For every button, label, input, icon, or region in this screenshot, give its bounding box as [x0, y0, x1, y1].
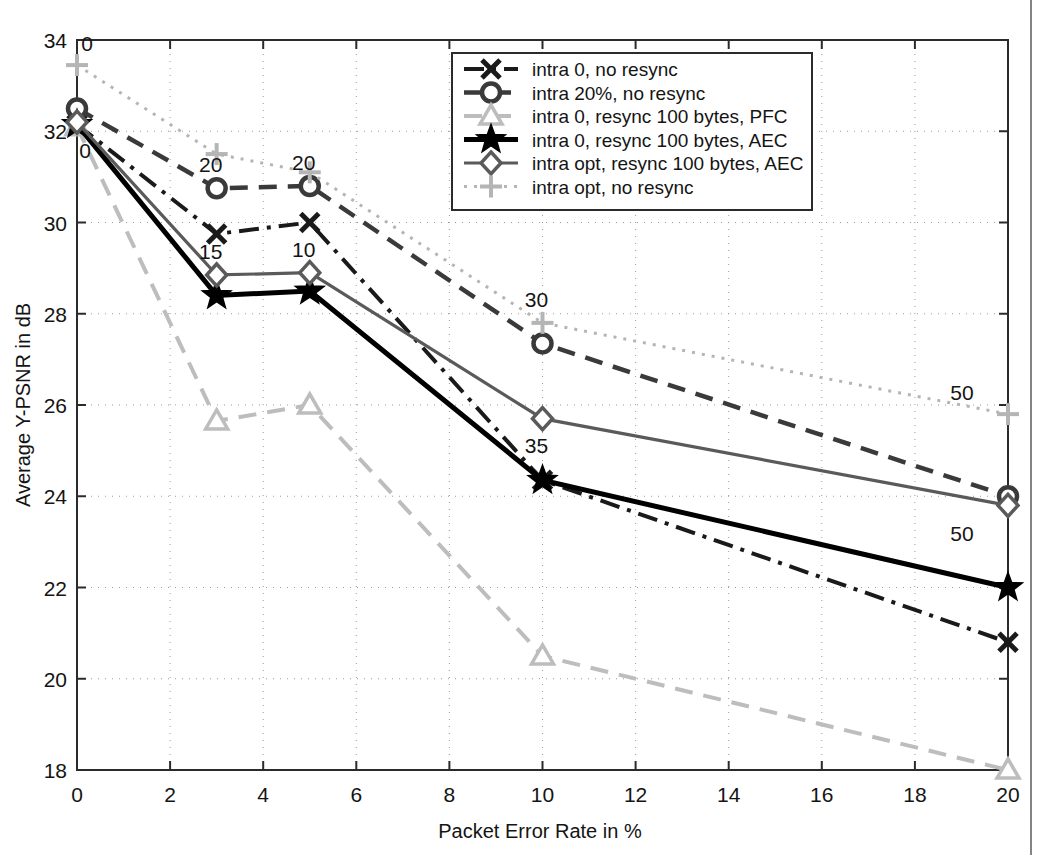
y-axis-label: Average Y-PSNR in dB — [12, 303, 34, 507]
x-tick-label: 4 — [257, 783, 269, 806]
data-annotation: 30 — [525, 288, 548, 311]
y-tick-label: 18 — [44, 759, 67, 782]
y-tick-label: 30 — [44, 212, 67, 235]
x-tick-label: 0 — [71, 783, 83, 806]
y-tick-label: 24 — [44, 485, 68, 508]
legend-box[interactable]: intra 0, no resyncintra 20%, no resyncin… — [452, 53, 812, 210]
circle-marker — [208, 179, 226, 197]
circle-marker — [534, 334, 552, 352]
legend-item-label: intra 0, resync 100 bytes, AEC — [532, 130, 788, 151]
y-tick-label: 28 — [44, 303, 67, 326]
legend-item-label: intra opt, no resync — [532, 177, 694, 198]
data-annotation: 50 — [950, 381, 973, 404]
x-tick-label: 14 — [717, 783, 741, 806]
data-annotation: 20 — [292, 151, 315, 174]
y-tick-label: 32 — [44, 120, 67, 143]
data-annotation: 0 — [79, 139, 91, 162]
y-tick-label: 22 — [44, 577, 67, 600]
x-tick-label: 20 — [996, 783, 1019, 806]
legend-item-label: intra opt, resync 100 bytes, AEC — [532, 153, 803, 174]
figure-container: 02468101214161820182022242628303234 0020… — [0, 0, 1047, 855]
y-tick-label: 34 — [44, 29, 68, 52]
x-tick-label: 8 — [444, 783, 456, 806]
legend-item-label: intra 20%, no resync — [532, 83, 705, 104]
scan-artifact-line — [1030, 0, 1032, 855]
y-tick-label: 26 — [44, 394, 67, 417]
data-annotation: 20 — [199, 153, 222, 176]
data-annotation: 50 — [950, 522, 973, 545]
data-annotation: 35 — [525, 434, 548, 457]
data-annotation: 15 — [199, 240, 222, 263]
legend-item-label: intra 0, no resync — [532, 59, 678, 80]
x-tick-label: 2 — [164, 783, 176, 806]
circle-marker — [482, 84, 500, 102]
data-annotation: 10 — [292, 238, 315, 261]
x-tick-label: 18 — [903, 783, 926, 806]
y-tick-label: 20 — [44, 668, 67, 691]
psnr-line-chart: 02468101214161820182022242628303234 0020… — [0, 0, 1047, 855]
x-axis-label: Packet Error Rate in % — [438, 820, 642, 842]
x-tick-label: 10 — [531, 783, 554, 806]
data-annotation: 0 — [81, 32, 93, 55]
legend-item-label: intra 0, resync 100 bytes, PFC — [532, 106, 788, 127]
x-tick-label: 16 — [810, 783, 833, 806]
x-tick-label: 6 — [350, 783, 362, 806]
x-tick-label: 12 — [624, 783, 647, 806]
